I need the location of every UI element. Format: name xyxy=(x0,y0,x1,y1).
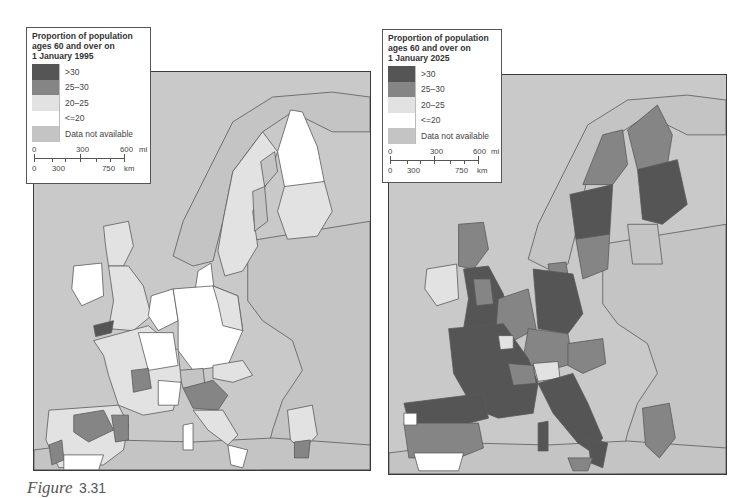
region-peloponnese xyxy=(294,440,310,458)
region-sweden-na2 xyxy=(253,187,268,232)
swatch-le20 xyxy=(32,111,60,127)
scale-km-mid: 300 xyxy=(407,166,420,175)
legend-title-line1: Proportion of population xyxy=(388,33,497,43)
scale-tick xyxy=(65,158,66,162)
scale-tick xyxy=(420,160,421,164)
region-france-e xyxy=(508,363,536,385)
region-germany-e xyxy=(533,269,583,334)
swatch-le20 xyxy=(388,113,416,129)
legend-label: 25–30 xyxy=(65,82,89,92)
legend-item-20-25: 20–25 xyxy=(388,97,497,113)
scale-mi-unit: mi xyxy=(139,145,147,154)
scale-mi-max: 600 xyxy=(120,145,133,154)
legend-item-gt30: >30 xyxy=(32,64,146,80)
legend-item-na: Data not available xyxy=(32,126,146,142)
scale-km-unit: km xyxy=(477,166,487,175)
swatch-20-25 xyxy=(32,95,60,111)
legend-item-le20: <=20 xyxy=(388,113,497,129)
swatch-25-30 xyxy=(388,82,416,98)
legend-label: <=20 xyxy=(421,115,440,125)
scale-tick xyxy=(390,156,391,164)
legend-label: 20–25 xyxy=(421,100,445,110)
scale-mi-mid: 300 xyxy=(430,147,443,156)
region-sardinia xyxy=(183,423,193,450)
region-paris xyxy=(498,336,513,350)
legend-item-na: Data not available xyxy=(388,128,497,144)
scale-tick xyxy=(407,160,408,164)
region-cornwall xyxy=(94,321,114,337)
region-andalusia xyxy=(414,453,464,471)
legend-item-gt30: >30 xyxy=(388,66,497,82)
caption-prefix: Figure xyxy=(27,478,73,497)
figure-caption: Figure 3.31 xyxy=(27,478,106,498)
legend-item-25-30: 25–30 xyxy=(388,82,497,98)
region-sweden-c xyxy=(570,185,613,240)
scale-tick xyxy=(434,156,435,164)
legend-title: Proportion of population ages 60 and ove… xyxy=(32,31,146,61)
legend-title-line2: ages 60 and over on xyxy=(388,43,497,53)
legend-label: 20–25 xyxy=(65,98,89,108)
legend-label: <=20 xyxy=(65,113,84,123)
region-finland-south xyxy=(638,160,688,225)
legend-label: >30 xyxy=(65,67,79,77)
region-portugal-n xyxy=(404,413,417,425)
scale-tick xyxy=(110,158,111,162)
scale-tick xyxy=(464,160,465,164)
region-england xyxy=(109,266,152,331)
region-spain-s xyxy=(64,455,104,470)
scale-mi-0: 0 xyxy=(388,147,392,156)
scale-mi-0: 0 xyxy=(32,145,36,154)
legend-item-20-25: 20–25 xyxy=(32,95,146,111)
legend-title-line3: 1 January 1995 xyxy=(32,51,146,61)
legend-1995: Proportion of population ages 60 and ove… xyxy=(26,27,151,184)
scale-km-max: 750 xyxy=(102,164,115,173)
region-france-se xyxy=(158,380,181,405)
swatch-gt30 xyxy=(388,66,416,82)
region-ireland xyxy=(72,263,104,306)
scale-tick xyxy=(80,154,81,162)
legend-label: Data not available xyxy=(421,131,489,141)
scale-km-mid: 300 xyxy=(52,164,65,173)
region-france-c xyxy=(131,368,151,392)
scale-bar: 0 300 600 mi 0 300 750 km xyxy=(32,145,146,175)
scale-km-0: 0 xyxy=(388,166,392,175)
swatch-25-30 xyxy=(32,80,60,96)
region-benelux xyxy=(148,289,178,331)
region-portugal-s xyxy=(49,440,64,465)
swatch-20-25 xyxy=(388,97,416,113)
legend-title-line3: 1 January 2025 xyxy=(388,53,497,63)
caption-number: 3.31 xyxy=(79,480,106,496)
legend-label: 25–30 xyxy=(421,84,445,94)
legend-2025: Proportion of population ages 60 and ove… xyxy=(382,29,502,183)
region-austria xyxy=(568,339,606,374)
scale-tick xyxy=(52,158,53,162)
region-scotland xyxy=(104,221,134,266)
legend-title-line1: Proportion of population xyxy=(32,31,146,41)
scale-mi-max: 600 xyxy=(473,147,486,156)
region-scotland xyxy=(459,222,489,269)
legend-title-line2: ages 60 and over on xyxy=(32,41,146,51)
legend-label: Data not available xyxy=(65,129,133,139)
scale-tick xyxy=(478,156,479,164)
scale-mi-mid: 300 xyxy=(76,145,89,154)
region-sardinia xyxy=(538,421,548,451)
scale-tick xyxy=(96,158,97,162)
swatch-na xyxy=(32,126,60,142)
scale-tick xyxy=(34,154,35,162)
swatch-gt30 xyxy=(32,64,60,80)
scale-km-unit: km xyxy=(124,164,134,173)
legend-label: >30 xyxy=(421,69,435,79)
region-italy-c xyxy=(193,410,238,445)
region-baltics xyxy=(628,224,663,264)
scale-km-0: 0 xyxy=(32,164,36,173)
scale-bar: 0 300 600 mi 0 300 750 km xyxy=(388,147,497,177)
legend-title: Proportion of population ages 60 and ove… xyxy=(388,33,497,63)
legend-item-le20: <=20 xyxy=(32,111,146,127)
scale-tick xyxy=(124,154,125,162)
scale-km-max: 750 xyxy=(455,166,468,175)
scale-tick xyxy=(450,160,451,164)
region-ireland xyxy=(425,264,459,306)
region-england-mid xyxy=(473,279,493,306)
swatch-na xyxy=(388,128,416,144)
scale-mi-unit: mi xyxy=(491,147,499,156)
